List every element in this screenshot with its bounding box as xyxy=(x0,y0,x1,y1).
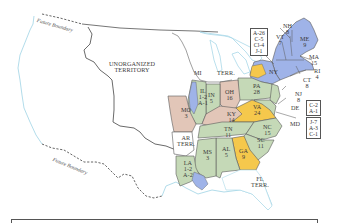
label-ga: GA9 xyxy=(239,148,248,160)
label-la: LA1-2A-2 xyxy=(183,160,193,179)
label-va: VA24 xyxy=(253,104,261,116)
state-value: 16 xyxy=(225,95,234,101)
future-boundary-south-line xyxy=(42,144,162,198)
label-terr: TERR. xyxy=(217,70,235,76)
label-line: TERR. xyxy=(251,182,269,188)
northern-border xyxy=(82,24,218,32)
pacific-coastline xyxy=(18,16,42,144)
state-value: 28 xyxy=(253,89,261,95)
label-vt: VT7 xyxy=(276,34,284,46)
label-unorganized-territory: UNORGANIZED TERRITORY xyxy=(109,61,155,73)
de-split-box: C-2 A-1 xyxy=(306,100,321,116)
label-al: AL5 xyxy=(222,146,230,158)
label-line: TERRITORY xyxy=(109,67,155,73)
state-value: 3 xyxy=(181,113,191,119)
state-value: 5 xyxy=(222,152,230,158)
state-value: 11 xyxy=(224,132,232,138)
label-mi: MI xyxy=(194,70,202,76)
state-value: 14 xyxy=(227,117,236,123)
ny-split-box: A-26 C-5 Cl-4 J-1 xyxy=(250,28,268,56)
label-mo: MO3 xyxy=(181,107,191,119)
state-value: 3 xyxy=(203,155,212,161)
label-pa: PA28 xyxy=(253,83,261,95)
state-value: 4 xyxy=(314,74,320,80)
label-oh: OH16 xyxy=(225,89,234,101)
legend-frame xyxy=(11,219,318,223)
label-ri: RI4 xyxy=(314,68,320,80)
state-value: A-1 xyxy=(198,100,208,106)
ny-split-line: J-1 xyxy=(253,48,265,54)
label-me: ME9 xyxy=(300,36,309,48)
md-split-box: J-7 A-3 C-1 xyxy=(306,117,321,139)
label-md: MD xyxy=(290,121,300,127)
label-line: TERR. xyxy=(177,141,195,147)
label-nj: NJ8 xyxy=(295,91,302,103)
state-value: 7 xyxy=(276,40,284,46)
label-nc: NC15 xyxy=(263,124,272,136)
state-value: 24 xyxy=(253,110,261,116)
label-ct: CT8 xyxy=(303,77,311,89)
label-il: IL1-2A-1 xyxy=(198,88,208,107)
label-tn: TN11 xyxy=(224,126,232,138)
state-value: 9 xyxy=(300,42,309,48)
label-sc: SC11 xyxy=(257,137,265,149)
label-de: DE xyxy=(291,105,299,111)
de-split-line: A-1 xyxy=(309,108,318,114)
state-value: 11 xyxy=(257,143,265,149)
state-nj xyxy=(270,84,280,104)
label-in: IN5 xyxy=(208,92,215,104)
western-territory-border xyxy=(84,27,180,150)
state-value: 9 xyxy=(239,154,248,160)
state-value: 15 xyxy=(309,60,319,66)
state-value: 8 xyxy=(303,83,311,89)
label-ky: KY14 xyxy=(227,111,236,123)
label-ar-terr: ARTERR. xyxy=(177,135,195,147)
state-value: 5 xyxy=(208,98,215,104)
state-value: 8 xyxy=(295,97,302,103)
label-ms: MS3 xyxy=(203,149,212,161)
state-value: A-2 xyxy=(183,172,193,178)
label-fl-terr: FLTERR. xyxy=(251,176,269,188)
label-ma: MA15 xyxy=(309,54,319,66)
md-split-line: C-1 xyxy=(309,131,318,137)
label-ny: NY xyxy=(269,69,278,75)
state-new-england xyxy=(272,18,318,80)
